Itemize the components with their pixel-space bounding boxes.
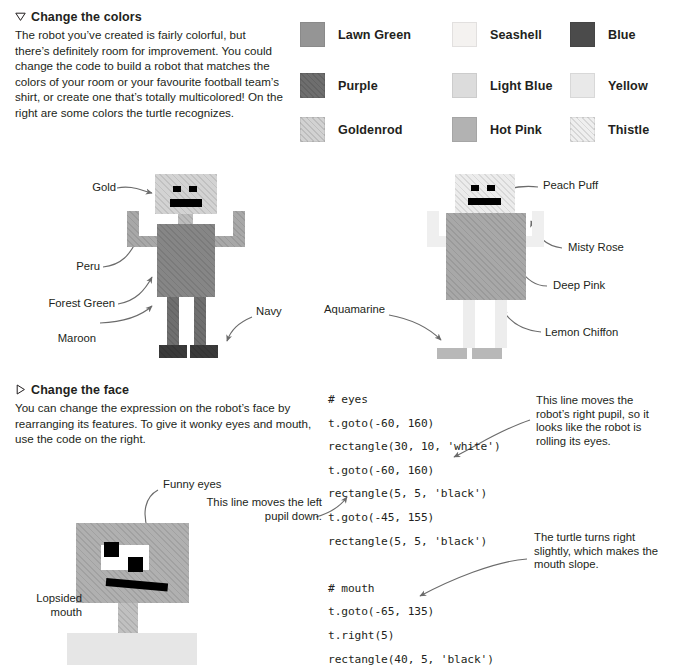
swatch-label: Hot Pink [490,123,542,137]
section-header-change-the-face: Change the face [15,383,129,397]
swatch-yellow: Yellow [570,73,648,98]
section-title: Change the colors [31,10,142,24]
swatch-light-blue: Light Blue [452,73,553,98]
swatch-chip [452,22,477,47]
robot-right-mouth [468,198,501,205]
swatch-chip [300,22,325,47]
swatch-chip [570,73,595,98]
robot-face-label-lopsided: Lopsided [0,592,82,606]
code-line: t.goto(-45, 155) [328,506,501,530]
robot-face-body [67,633,197,665]
swatch-label: Lawn Green [338,28,411,42]
robot-right-eye-right [487,185,495,191]
code-block: # eyes t.goto(-60, 160) rectangle(30, 10… [328,388,501,671]
code-line: rectangle(30, 10, 'white') [328,435,501,459]
swatch-thistle: Thistle [570,117,649,142]
robot-face-pupil-right [128,557,143,572]
code-line: t.goto(-60, 160) [328,412,501,436]
swatch-blue: Blue [570,22,636,47]
swatch-chip [452,117,477,142]
robot-face-label-funny-eyes: Funny eyes [163,478,221,492]
callout-left-pupil-note: This line moves the left pupil down. [188,496,322,523]
robot-right-foot-left [437,348,467,359]
swatch-seashell: Seashell [452,22,542,47]
swatch-chip [570,117,595,142]
robot-right-label-peach-puff: Peach Puff [543,179,598,193]
triangle-right-outline-icon [15,384,26,395]
robot-left-mouth [170,199,202,207]
code-line-blank [328,553,501,577]
swatch-chip [300,73,325,98]
swatch-label: Thistle [608,123,649,137]
swatch-goldenrod: Goldenrod [300,117,403,142]
robot-left-foot-right [190,345,218,358]
robot-right-label-misty-rose: Misty Rose [568,241,624,255]
robot-left-leg-right [194,297,206,345]
robot-left-label-gold: Gold [20,181,116,195]
robot-left-label-peru: Peru [20,260,100,274]
robot-face-pupil-left [104,542,119,557]
swatch-hot-pink: Hot Pink [452,117,542,142]
code-line: t.goto(-60, 160) [328,459,501,483]
robot-right-body [446,213,526,300]
section-header-change-the-colors: Change the colors [15,10,142,24]
section-title: Change the face [31,383,129,397]
code-line: # mouth [328,577,501,601]
triangle-down-outline-icon [15,11,26,22]
robot-left-leg-left [167,297,179,345]
robot-left-label-forest-green: Forest Green [10,297,115,311]
swatch-lawn-green: Lawn Green [300,22,411,47]
robot-face-label-mouth: mouth [0,606,82,620]
code-line: t.goto(-65, 135) [328,600,501,624]
swatch-label: Yellow [608,79,648,93]
robot-left-body [157,224,215,297]
robot-face-neck [118,603,138,633]
robot-left-neck [178,214,193,224]
swatch-label: Light Blue [490,79,553,93]
robot-left-label-maroon: Maroon [18,332,96,346]
swatch-chip [570,22,595,47]
robot-left-eye-right [189,186,197,192]
robot-left-head [155,174,217,214]
robot-right-foot-right [472,348,502,359]
code-line: rectangle(5, 5, 'black') [328,530,501,554]
swatch-label: Blue [608,28,636,42]
robot-right-label-deep-pink: Deep Pink [553,279,605,293]
robot-right-label-aquamarine: Aquamarine [320,303,385,317]
robot-right-eye-left [471,185,479,191]
callout-right-pupil-note: This line moves the robot’s right pupil,… [536,394,664,448]
swatch-label: Goldenrod [338,123,403,137]
section-body-change-the-colors: The robot you’ve created is fairly color… [15,27,283,121]
swatch-chip [452,73,477,98]
swatch-label: Purple [338,79,378,93]
robot-left-label-navy: Navy [256,305,282,319]
code-line: # eyes [328,388,501,412]
code-line: rectangle(40, 5, 'black') [328,648,501,671]
code-line: rectangle(5, 5, 'black') [328,482,501,506]
swatch-chip [300,117,325,142]
swatch-label: Seashell [490,28,542,42]
code-line: t.right(5) [328,624,501,648]
section-body-change-the-face: You can change the expression on the rob… [15,400,323,447]
callout-mouth-slope-note: The turtle turns right slightly, which m… [534,531,666,572]
robot-right-head [455,174,515,214]
robot-right-leg-left [463,300,475,348]
swatch-purple: Purple [300,73,378,98]
robot-right-leg-right [495,300,507,348]
robot-right-label-lemon-chiffon: Lemon Chiffon [545,326,618,340]
robot-left-eye-left [173,186,181,192]
robot-left-foot-left [159,345,187,358]
